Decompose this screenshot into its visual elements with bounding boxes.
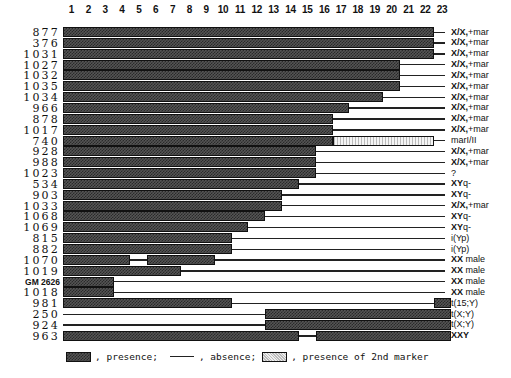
column-number: 7 — [170, 4, 175, 15]
karyotype-label: XYq- — [451, 178, 471, 189]
presence-bar — [63, 277, 114, 287]
karyotype-label: X/X,+mar — [451, 200, 489, 211]
column-number: 3 — [102, 4, 107, 15]
presence-bar — [316, 331, 451, 341]
column-number: 14 — [285, 4, 296, 15]
karyotype-label: X/X,+mar — [451, 102, 489, 113]
presence-bar — [63, 125, 333, 135]
column-number: 12 — [252, 4, 263, 15]
absence-line — [63, 281, 445, 282]
legend-absence-line — [170, 356, 194, 357]
presence-bar — [265, 309, 450, 319]
karyotype-label: X/X,+mar — [451, 124, 489, 135]
presence-bar — [63, 146, 316, 156]
legend: , presence; , absence; , presence of 2nd… — [66, 351, 434, 362]
column-number: 23 — [437, 4, 448, 15]
legend-presence-swatch — [66, 352, 91, 362]
karyotype-label: XXY — [451, 330, 469, 341]
presence-bar — [63, 244, 232, 254]
karyotype-label: X/X,+mar — [451, 37, 489, 48]
presence-bar — [63, 49, 434, 59]
column-number: 21 — [403, 4, 414, 15]
presence-bar — [63, 222, 248, 232]
presence-bar — [63, 103, 349, 113]
karyotype-label: marI/II — [451, 135, 477, 146]
second-marker-bar — [333, 136, 434, 146]
presence-bar — [63, 179, 299, 189]
row-label: 1017 — [23, 125, 60, 136]
column-number: 22 — [420, 4, 431, 15]
column-number: 9 — [204, 4, 209, 15]
legend-second-marker-swatch — [262, 352, 287, 362]
karyotype-label: X/X,+mar — [451, 48, 489, 59]
presence-bar — [63, 70, 400, 80]
presence-bar — [63, 298, 232, 308]
column-number: 11 — [235, 4, 245, 15]
legend-presence-label: , presence; — [95, 351, 158, 362]
karyotype-label: t(X;Y) — [451, 309, 474, 320]
legend-second-marker-label: , presence of 2nd marker — [291, 351, 428, 362]
presence-bar — [63, 136, 333, 146]
legend-absence-label: , absence; — [199, 351, 256, 362]
presence-bar — [63, 81, 400, 91]
presence-bar — [63, 331, 299, 341]
column-number: 16 — [319, 4, 330, 15]
karyotype-label: X/X,+mar — [451, 70, 489, 81]
karyotype-label: XX male — [451, 287, 485, 298]
column-number: 2 — [86, 4, 91, 15]
presence-bar — [63, 27, 434, 37]
presence-bar — [434, 298, 451, 308]
row-label: 1019 — [23, 266, 60, 277]
presence-bar — [63, 287, 114, 297]
presence-bar — [63, 211, 265, 221]
column-number: 20 — [386, 4, 397, 15]
column-number: 6 — [153, 4, 158, 15]
presence-bar — [63, 114, 333, 124]
column-number: 15 — [302, 4, 313, 15]
column-number: 10 — [218, 4, 229, 15]
presence-bar — [63, 266, 181, 276]
absence-line — [63, 292, 445, 293]
presence-bar — [63, 60, 400, 70]
column-number: 19 — [369, 4, 380, 15]
karyotype-label: X/X,+mar — [451, 113, 489, 124]
column-number: 18 — [353, 4, 364, 15]
karyotype-label: X/X,+mar — [451, 146, 489, 157]
karyotype-label: XYq- — [451, 211, 471, 222]
column-number: 4 — [119, 4, 124, 15]
karyotype-label: t(X;Y) — [451, 319, 474, 330]
karyotype-label: i(Yp) — [451, 244, 469, 255]
presence-bar — [63, 168, 316, 178]
karyotype-label: X/X,+mar — [451, 92, 489, 103]
karyotype-label: XX male — [451, 265, 485, 276]
karyotype-label: X/X,+mar — [451, 157, 489, 168]
presence-bar — [63, 92, 383, 102]
presence-bar — [147, 255, 214, 265]
karyotype-label: X/X,+mar — [451, 59, 489, 70]
karyotype-label: XYq- — [451, 222, 471, 233]
row-label: 963 — [32, 331, 60, 342]
karyotype-label: XX male — [451, 276, 485, 287]
karyotype-label: XYq- — [451, 189, 471, 200]
presence-bar — [265, 320, 450, 330]
column-number: 1 — [69, 4, 74, 15]
karyotype-label: X/X,+mar — [451, 27, 489, 38]
karyotype-label: XX male — [451, 254, 485, 265]
presence-bar — [63, 38, 434, 48]
karyotype-label: ? — [451, 168, 456, 179]
karyotype-label: t(15;Y) — [451, 298, 478, 309]
presence-bar — [63, 190, 282, 200]
presence-bar — [63, 233, 232, 243]
karyotype-label: i(Yp) — [451, 233, 469, 244]
column-number: 13 — [268, 4, 279, 15]
karyotype-label: X/X,+mar — [451, 81, 489, 92]
presence-bar — [63, 201, 282, 211]
column-number: 5 — [136, 4, 141, 15]
column-number: 8 — [187, 4, 192, 15]
presence-bar — [63, 255, 130, 265]
presence-bar — [63, 157, 316, 167]
column-number: 17 — [336, 4, 347, 15]
